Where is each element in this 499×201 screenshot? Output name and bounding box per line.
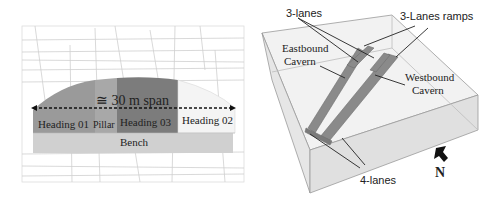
eastbound-label-line1: Eastbound (282, 43, 328, 54)
pillar-label: Pillar (93, 120, 115, 130)
westbound-label-line2: Cavern (412, 85, 444, 96)
bench-label: Bench (120, 137, 148, 148)
three-lanes-label: 3-lanes (286, 8, 322, 19)
westbound-label-line1: Westbound (405, 72, 454, 83)
eastbound-label-line2: Cavern (284, 56, 316, 67)
north-arrow-icon (434, 146, 448, 162)
heading-03-label: Heading 03 (120, 117, 171, 128)
heading-02-label: Heading 02 (182, 115, 233, 126)
cross-section-figure: ≅ 30 m span Heading 01 Pillar Heading 03… (0, 0, 250, 201)
three-lanes-ramps-label: 3-Lanes ramps (400, 11, 473, 22)
cavern-3d-figure: 3-lanes 3-Lanes ramps Eastbound Cavern W… (250, 0, 499, 201)
north-label: N (435, 166, 445, 180)
four-lanes-label: 4-lanes (360, 175, 396, 186)
span-label: ≅ 30 m span (96, 94, 169, 108)
cavern-3d-drawing (250, 0, 499, 201)
heading-01-label: Heading 01 (38, 119, 89, 130)
